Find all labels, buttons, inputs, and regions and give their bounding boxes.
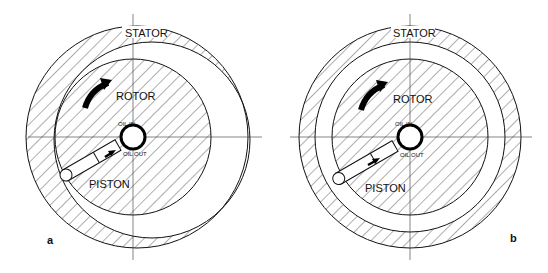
piston-label: PISTON xyxy=(365,182,406,194)
rotor-label: ROTOR xyxy=(393,93,433,105)
figure-b: STATOR ROTOR PISTON OIL IN OIL OUT b xyxy=(0,0,548,273)
diagram: STATOR ROTOR PISTON OIL IN OIL OUT a STA… xyxy=(0,0,548,273)
oil-in-label: OIL IN xyxy=(395,121,412,127)
oil-out-label: OIL OUT xyxy=(400,152,424,158)
stator-label: STATOR xyxy=(393,27,436,39)
panel-label: b xyxy=(510,232,517,244)
